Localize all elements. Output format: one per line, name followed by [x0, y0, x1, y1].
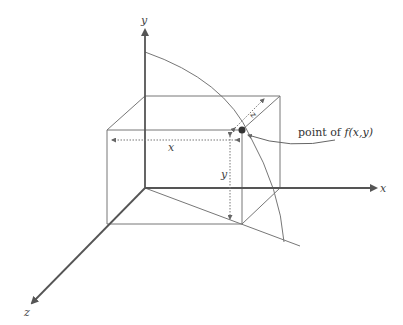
3d-coordinate-diagram: y x z x y z point of f(x,y)	[0, 0, 403, 325]
annotation-prefix: point of	[298, 126, 344, 139]
x-axis-label: x	[380, 182, 387, 195]
z-axis	[32, 188, 145, 303]
y-axis-label: y	[140, 14, 148, 27]
projection-line	[145, 188, 300, 246]
annotation-function: f(x,y)	[343, 126, 373, 139]
x-dimension-label: x	[168, 141, 175, 154]
y-dimension-label: y	[220, 168, 228, 181]
z-dimension-label: z	[248, 109, 259, 120]
back-box	[145, 96, 280, 188]
point-annotation: point of f(x,y)	[298, 126, 373, 139]
function-point	[239, 127, 246, 134]
z-axis-label: z	[23, 306, 30, 319]
